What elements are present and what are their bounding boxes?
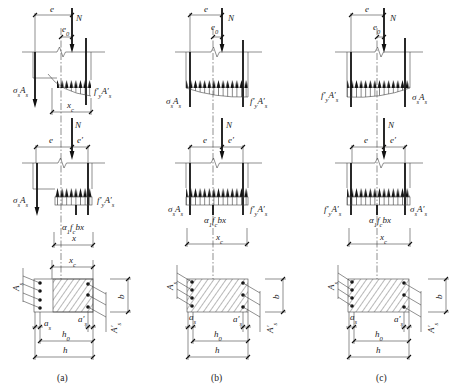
- label-concrete-resultant: α1fcbx: [369, 215, 391, 228]
- label-h0: h0: [375, 329, 384, 342]
- label-e: e: [364, 135, 368, 145]
- panel-caption: (b): [211, 373, 222, 384]
- label-e0: e0: [373, 22, 381, 35]
- break-line: [175, 47, 262, 57]
- panel-b-equivalent-block: N e e′ σsAs f′yA′s α1fcbx xc: [168, 118, 268, 247]
- column-outline: [186, 163, 248, 188]
- panel-c: e N e0 f′yA′s σsAs N e e′: [321, 4, 449, 384]
- column-outline: [33, 163, 92, 189]
- label-e: e: [204, 4, 208, 14]
- stress-block: [55, 197, 92, 205]
- label-xc: xc: [215, 232, 223, 245]
- panel-b: e N e0 σsAs f′yA′s N e e′: [165, 4, 286, 384]
- panel-a: e N e0 σsAs f′yA′s xc N: [11, 4, 131, 384]
- label-right-steel-force: f′yA′s: [250, 204, 268, 217]
- label-b: b: [271, 294, 281, 299]
- compression-stress-arrows: [186, 188, 248, 197]
- arrowhead-icon: [70, 44, 75, 53]
- column-outline: [347, 163, 410, 188]
- section-hatch: [348, 279, 409, 312]
- arrowhead-icon: [382, 44, 387, 53]
- dimension-e-eprime: [36, 145, 88, 163]
- panel-b-stress-state: e N e0 σsAs f′yA′s: [166, 4, 268, 109]
- break-line: [22, 158, 105, 168]
- label-right-steel-force: f′yA′s: [250, 96, 268, 109]
- label-e-prime: e′: [390, 135, 397, 145]
- label-h: h: [215, 345, 220, 355]
- panel-c-equivalent-block: N e e′ f′yA′s σsA′s α1fcbx xc: [324, 118, 427, 247]
- label-e: e: [49, 135, 53, 145]
- label-e: e: [50, 4, 54, 14]
- label-b: b: [116, 294, 126, 299]
- arrowhead-icon: [35, 207, 40, 216]
- leader-As: [23, 268, 40, 308]
- label-As-prime: A′s: [426, 323, 439, 334]
- label-concrete-resultant: α1fcbx: [204, 215, 226, 228]
- arrowhead-icon: [382, 151, 387, 160]
- label-N: N: [387, 120, 395, 130]
- label-xc: xc: [66, 100, 74, 113]
- label-e0: e0: [211, 22, 219, 35]
- label-b: b: [434, 294, 444, 299]
- stress-block: [186, 197, 248, 205]
- dimension-e-eprime: [190, 145, 243, 163]
- label-xc: xc: [379, 232, 387, 245]
- label-N: N: [389, 13, 397, 23]
- panel-a-cross-section: xc As A′s b as a′s h0: [11, 255, 131, 360]
- label-e: e: [203, 135, 207, 145]
- label-as-prime: a′s: [78, 314, 87, 327]
- panel-a-stress-state: e N e0 σsAs f′yA′s xc: [13, 4, 112, 115]
- label-h0: h0: [62, 329, 71, 342]
- label-As: As: [11, 283, 24, 293]
- label-right-steel-force: σsA′s: [410, 204, 427, 217]
- label-as-prime: a′s: [394, 314, 403, 327]
- label-right-steel-force: σsAs: [412, 92, 427, 105]
- label-e: e: [365, 4, 369, 14]
- label-As-prime: A′s: [109, 323, 122, 334]
- label-h: h: [63, 345, 68, 355]
- label-e-prime: e′: [228, 135, 235, 145]
- label-h0: h0: [214, 329, 223, 342]
- label-left-steel-force: f′yA′s: [324, 204, 342, 217]
- label-N: N: [227, 13, 235, 23]
- compression-stress-arrows: [186, 80, 248, 88]
- label-right-steel-force: f′yA′s: [94, 86, 112, 99]
- label-e0: e0: [62, 24, 70, 37]
- panel-a-equivalent-block: N e e′ σsAs f′yA′s α1fcbx x: [13, 118, 115, 248]
- column-outline: [33, 52, 91, 80]
- label-As: As: [326, 282, 339, 292]
- label-h: h: [376, 345, 381, 355]
- panel-b-cross-section: As A′s b as a′s h0 h: [165, 265, 286, 360]
- label-as: as: [189, 312, 197, 325]
- label-left-steel-force: f′yA′s: [321, 90, 339, 103]
- label-right-steel-force: f′yA′s: [97, 195, 115, 208]
- label-N: N: [74, 120, 82, 130]
- label-e-prime: e′: [77, 135, 84, 145]
- label-N: N: [225, 120, 233, 130]
- label-As: As: [165, 282, 178, 292]
- tension-rebars: [38, 281, 42, 310]
- label-left-steel-force: σsAs: [13, 195, 28, 208]
- arrowhead-icon: [220, 44, 225, 53]
- compression-stress-arrows: [347, 80, 410, 88]
- label-left-steel-force: σsAs: [166, 96, 181, 109]
- label-As-prime: A′s: [265, 323, 278, 334]
- break-line: [175, 158, 262, 168]
- compression-stress-arrows: [347, 188, 410, 197]
- arrowhead-icon: [70, 151, 75, 160]
- label-as-prime: a′s: [233, 314, 242, 327]
- stress-distribution-fill: [186, 88, 248, 97]
- label-as: as: [44, 318, 52, 331]
- label-left-steel-force: σsAs: [168, 204, 183, 217]
- eccentric-compression-figure: e N e0 σsAs f′yA′s xc N: [0, 0, 454, 390]
- panel-c-stress-state: e N e0 f′yA′s σsAs: [321, 4, 427, 107]
- stress-distribution-fill: [64, 88, 91, 96]
- label-x: x: [71, 233, 76, 243]
- label-N: N: [75, 13, 83, 23]
- column-outline: [347, 52, 410, 80]
- compression-stress-arrows: [55, 188, 92, 197]
- arrowhead-icon: [220, 151, 225, 160]
- arrowhead-icon: [33, 99, 38, 108]
- stress-block: [347, 197, 410, 205]
- panel-c-cross-section: As A′s b as a′s h0 h: [326, 265, 449, 360]
